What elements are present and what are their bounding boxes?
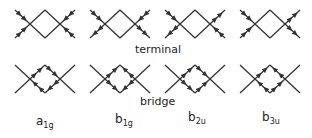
bond-line: [180, 24, 195, 38]
bond-line: [45, 65, 60, 79]
bond-line: [165, 79, 180, 93]
bond-line: [90, 79, 105, 93]
bond-line: [30, 79, 45, 93]
terminal-row: [15, 10, 300, 38]
bond-line: [15, 79, 30, 93]
bond-line: [60, 65, 75, 79]
bond-line: [240, 10, 255, 24]
bond-line: [195, 65, 210, 79]
bond-line: [210, 10, 225, 24]
bond-line: [255, 79, 270, 93]
bond-line: [105, 10, 120, 24]
bond-line: [120, 65, 135, 79]
mode-diagram: [90, 10, 150, 38]
symmetry-label-b1g: b1g: [115, 112, 133, 128]
bond-line: [60, 24, 75, 38]
bond-line: [240, 79, 255, 93]
bond-line: [195, 24, 210, 38]
bond-line: [195, 10, 210, 24]
symmetry-subscript: 1g: [43, 121, 53, 130]
symmetry-subscript: 1g: [123, 119, 133, 128]
bond-line: [120, 79, 135, 93]
bond-line: [180, 65, 195, 79]
bond-line: [285, 79, 300, 93]
bond-line: [30, 10, 45, 24]
bond-line: [60, 79, 75, 93]
bridge-label: bridge: [140, 95, 175, 108]
bond-line: [240, 65, 255, 79]
bond-line: [30, 24, 45, 38]
bond-line: [120, 10, 135, 24]
mode-diagram: [165, 10, 225, 38]
bridge-row: [15, 65, 300, 93]
mode-diagram: [240, 65, 300, 93]
bond-line: [105, 65, 120, 79]
bond-line: [165, 10, 180, 24]
bond-line: [270, 79, 285, 93]
symmetry-label-b2u: b2u: [188, 110, 206, 126]
bond-line: [135, 65, 150, 79]
bond-line: [270, 10, 285, 24]
bond-line: [45, 24, 60, 38]
bond-line: [210, 79, 225, 93]
symmetry-subscript: 3u: [270, 117, 280, 126]
bond-line: [135, 79, 150, 93]
bond-line: [180, 79, 195, 93]
symmetry-label-a1g: a1g: [36, 114, 54, 130]
symmetry-base: b: [262, 110, 270, 124]
symmetry-base: b: [188, 110, 196, 124]
bond-line: [210, 24, 225, 38]
bond-line: [15, 65, 30, 79]
symmetry-subscript: 2u: [196, 117, 206, 126]
bond-line: [15, 10, 30, 24]
bond-line: [120, 24, 135, 38]
bond-line: [105, 24, 120, 38]
bond-line: [90, 10, 105, 24]
bond-line: [45, 10, 60, 24]
bond-line: [90, 65, 105, 79]
bond-line: [270, 24, 285, 38]
bond-line: [255, 10, 270, 24]
bond-line: [210, 65, 225, 79]
bond-line: [240, 24, 255, 38]
bond-line: [135, 24, 150, 38]
symmetry-label-b3u: b3u: [262, 110, 280, 126]
bond-line: [90, 24, 105, 38]
bond-line: [270, 65, 285, 79]
bond-line: [105, 79, 120, 93]
bond-line: [285, 10, 300, 24]
bond-line: [15, 24, 30, 38]
bond-line: [285, 65, 300, 79]
mode-diagram: [165, 65, 225, 93]
bond-line: [255, 65, 270, 79]
bond-line: [60, 10, 75, 24]
bond-line: [180, 10, 195, 24]
symmetry-base: b: [115, 112, 123, 126]
bond-line: [135, 10, 150, 24]
bond-line: [30, 65, 45, 79]
mode-diagram: [240, 10, 300, 38]
bond-line: [45, 79, 60, 93]
mode-diagram: [15, 65, 75, 93]
mode-diagram: [90, 65, 150, 93]
mode-diagram: [15, 10, 75, 38]
bond-line: [165, 65, 180, 79]
bond-line: [195, 79, 210, 93]
bond-line: [255, 24, 270, 38]
terminal-label: terminal: [135, 43, 181, 56]
bond-line: [165, 24, 180, 38]
bond-line: [285, 24, 300, 38]
